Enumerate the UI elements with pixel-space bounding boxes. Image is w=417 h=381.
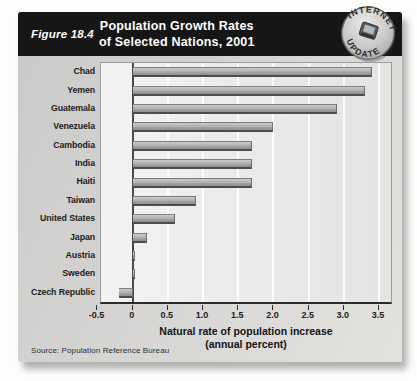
category-label-yemen: Yemen bbox=[18, 80, 95, 98]
x-tick-label: 0.5 bbox=[153, 310, 181, 320]
bar-india bbox=[133, 159, 253, 169]
category-label-cambodia: Cambodia bbox=[18, 136, 95, 154]
bar-taiwan bbox=[133, 196, 196, 206]
x-tick-label: 1.0 bbox=[188, 310, 216, 320]
figure-title-line1: Population Growth Rates bbox=[99, 18, 255, 34]
plot-area bbox=[100, 62, 392, 304]
category-label-japan: Japan bbox=[18, 227, 95, 245]
bar-cambodia bbox=[133, 141, 253, 151]
category-label-taiwan: Taiwan bbox=[18, 191, 95, 209]
category-label-chad: Chad bbox=[18, 62, 95, 80]
source-note: Source: Population Reference Bureau bbox=[31, 346, 169, 355]
category-label-guatemala: Guatemala bbox=[18, 99, 95, 117]
category-label-austria: Austria bbox=[18, 246, 95, 264]
bar-austria bbox=[133, 251, 135, 261]
category-label-india: India bbox=[18, 154, 95, 172]
figure-title: Population Growth Rates of Selected Nati… bbox=[99, 18, 255, 50]
page: Figure 18.4 Population Growth Rates of S… bbox=[0, 0, 417, 381]
bar-japan bbox=[133, 233, 147, 243]
bar-sweden bbox=[133, 269, 135, 279]
x-tick-label: 3.5 bbox=[364, 310, 392, 320]
category-labels: ChadYemenGuatemalaVenezuelaCambodiaIndia… bbox=[18, 62, 100, 304]
category-label-czech-republic: Czech Republic bbox=[18, 283, 95, 301]
x-tick-label: -0.5 bbox=[82, 310, 110, 320]
x-axis-ticks: -0.500.51.01.52.02.53.03.5 bbox=[100, 304, 392, 324]
bar-venezuela bbox=[133, 122, 274, 132]
figure-card: Figure 18.4 Population Growth Rates of S… bbox=[18, 12, 402, 362]
category-label-united-states: United States bbox=[18, 209, 95, 227]
gridline bbox=[272, 63, 274, 302]
bar-united-states bbox=[133, 214, 175, 224]
x-tick-label: 2.0 bbox=[258, 310, 286, 320]
category-label-haiti: Haiti bbox=[18, 172, 95, 190]
bar-czech-republic bbox=[119, 288, 133, 298]
bar-haiti bbox=[133, 178, 253, 188]
x-tick-label: 1.5 bbox=[223, 310, 251, 320]
internet-update-badge[interactable]: INTERNET UPDATE bbox=[337, 2, 399, 64]
x-tick-label: 2.5 bbox=[294, 310, 322, 320]
x-tick-label: 0 bbox=[118, 310, 146, 320]
figure-label: Figure 18.4 bbox=[31, 28, 94, 40]
gridline bbox=[378, 63, 380, 302]
bar-guatemala bbox=[133, 104, 337, 114]
figure-title-line2: of Selected Nations, 2001 bbox=[99, 34, 255, 50]
gridline bbox=[308, 63, 310, 302]
bar-yemen bbox=[133, 86, 365, 96]
category-label-venezuela: Venezuela bbox=[18, 117, 95, 135]
category-label-sweden: Sweden bbox=[18, 264, 95, 282]
bar-chad bbox=[133, 67, 372, 77]
x-tick-label: 3.0 bbox=[329, 310, 357, 320]
x-axis-title-line1: Natural rate of population increase bbox=[100, 325, 392, 338]
gridline bbox=[343, 63, 345, 302]
